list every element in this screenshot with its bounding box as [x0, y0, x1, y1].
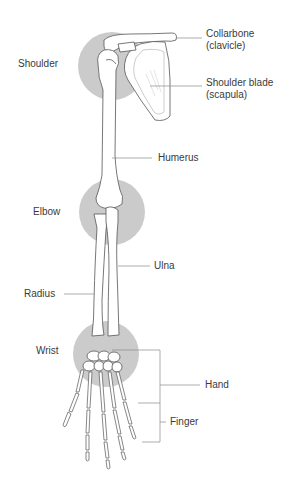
label-wrist: Wrist [36, 345, 59, 357]
scapula-bone [124, 41, 170, 120]
leader-lines [64, 38, 202, 442]
label-ulna: Ulna [154, 260, 175, 272]
label-shoulder-blade: Shoulder blade [206, 77, 273, 89]
label-shoulder: Shoulder [18, 58, 58, 70]
label-scapula: (scapula) [206, 89, 247, 101]
label-elbow: Elbow [33, 206, 60, 218]
label-finger: Finger [170, 416, 198, 428]
ulna-bone [106, 207, 119, 336]
arm-skeleton-diagram: Shoulder Collarbone (clavicle) Shoulder … [0, 0, 298, 478]
diagram-artwork [0, 0, 298, 478]
label-hand: Hand [205, 379, 229, 391]
label-collarbone: Collarbone [206, 28, 254, 40]
label-radius: Radius [24, 288, 55, 300]
label-humerus: Humerus [158, 152, 199, 164]
label-clavicle: (clavicle) [206, 40, 245, 52]
